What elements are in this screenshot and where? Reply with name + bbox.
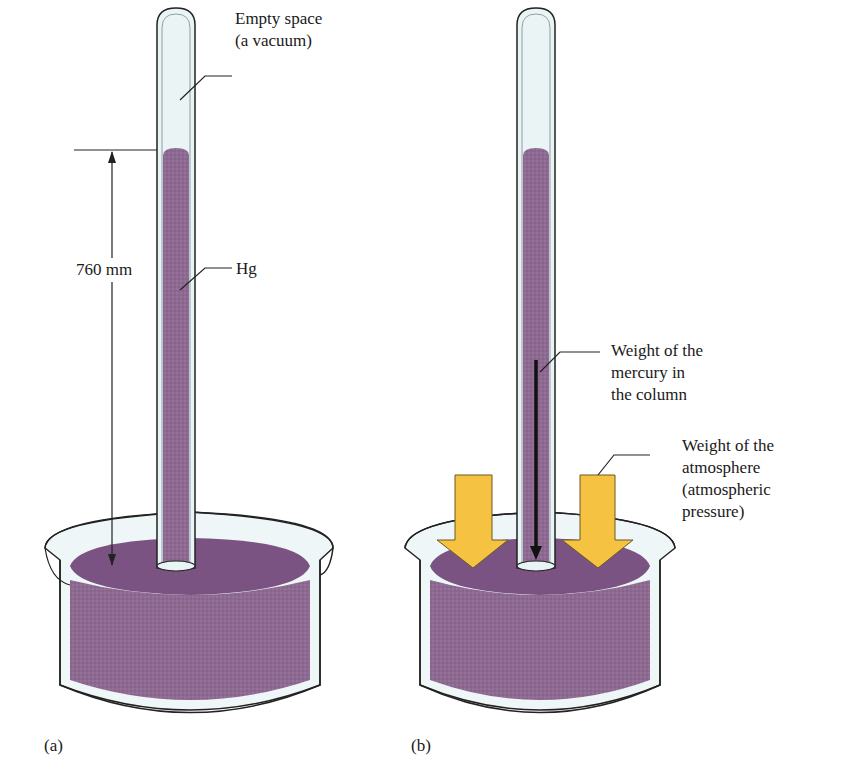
atmosphere-label-line1: Weight of the (682, 436, 774, 456)
mercury-hg-label: Hg (236, 259, 257, 279)
barometer-a (40, 8, 340, 713)
column-weight-label-line2: mercury in (611, 363, 685, 383)
barometer-figure (0, 0, 841, 773)
atmosphere-label-line3: (atmospheric (682, 480, 771, 500)
column-weight-label-line3: the column (611, 385, 687, 405)
height-760mm-label: 760 mm (76, 260, 132, 280)
atmosphere-label-line2: atmosphere (682, 458, 760, 478)
panel-a-label: (a) (44, 736, 63, 756)
column-weight-label-line1: Weight of the (611, 341, 703, 361)
vacuum-label-line2: (a vacuum) (235, 31, 312, 51)
vacuum-label-line1: Empty space (235, 9, 322, 29)
atmosphere-label-line4: pressure) (682, 502, 744, 522)
panel-b-label: (b) (411, 736, 431, 756)
